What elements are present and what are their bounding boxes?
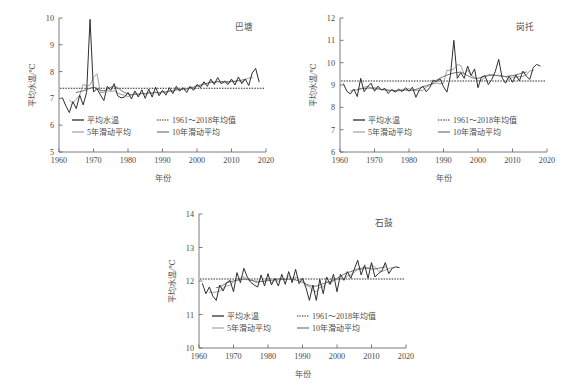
x-tick-label-batang: 2020 xyxy=(258,156,274,165)
x-tick-label-shigu: 1980 xyxy=(260,352,276,361)
legend-label-ma10-batang: 10年滑动平均 xyxy=(172,127,220,137)
legend-item-mean-shigu: 1961～2018年均值 xyxy=(297,311,376,321)
panel-title-shigu: 石鼓 xyxy=(375,217,393,228)
legend-item-annual-gangtuo: 平均水温 xyxy=(353,115,400,125)
legend-item-ma5-gangtuo: 5年滑动平均 xyxy=(353,127,412,137)
y-tick-label-batang: 9 xyxy=(50,41,54,50)
legend-item-ma10-batang: 10年滑动平均 xyxy=(157,127,220,137)
x-tick-label-batang: 1990 xyxy=(154,156,170,165)
x-tick-label-gangtuo: 1980 xyxy=(401,156,417,165)
legend-item-ma5-batang: 5年滑动平均 xyxy=(72,127,131,137)
annual-series-batang xyxy=(62,19,259,112)
legend-item-ma5-shigu: 5年滑动平均 xyxy=(212,323,271,333)
chart-svg-gangtuo: 67891011121960197019801990200020102020岗托… xyxy=(281,0,561,192)
x-tick-label-gangtuo: 2010 xyxy=(504,156,520,165)
legend-label-annual-batang: 平均水温 xyxy=(87,115,119,125)
x-axis-title-batang: 年份 xyxy=(155,173,171,183)
x-tick-label-gangtuo: 1960 xyxy=(332,156,348,165)
y-tick-label-batang: 8 xyxy=(50,68,54,77)
y-tick-label-gangtuo: 8 xyxy=(331,103,335,112)
y-axis-title-gangtuo: 平均水温/℃ xyxy=(308,63,318,106)
legend-item-annual-batang: 平均水温 xyxy=(72,115,119,125)
y-tick-label-gangtuo: 12 xyxy=(327,14,335,23)
chart-svg-shigu: 10111213141960197019801990200020102020石鼓… xyxy=(140,196,421,388)
legend-label-ma5-gangtuo: 5年滑动平均 xyxy=(368,127,412,137)
annual-series-gangtuo xyxy=(343,40,540,97)
chart-panel-gangtuo: 67891011121960197019801990200020102020岗托… xyxy=(281,0,561,192)
figure-root: 56789101960197019801990200020102020巴塘平均水… xyxy=(0,0,561,388)
x-tick-label-batang: 1970 xyxy=(85,156,101,165)
x-tick-label-gangtuo: 2020 xyxy=(539,156,555,165)
y-tick-label-shigu: 14 xyxy=(186,210,194,219)
chart-panel-batang: 56789101960197019801990200020102020巴塘平均水… xyxy=(0,0,281,192)
y-axis-title-batang: 平均水温/℃ xyxy=(27,63,37,106)
y-tick-label-gangtuo: 10 xyxy=(327,59,335,68)
x-tick-label-batang: 2000 xyxy=(189,156,205,165)
legend-item-ma10-gangtuo: 10年滑动平均 xyxy=(438,127,501,137)
x-tick-label-gangtuo: 1970 xyxy=(366,156,382,165)
legend-label-ma10-shigu: 10年滑动平均 xyxy=(312,323,360,333)
legend-label-mean-batang: 1961～2018年均值 xyxy=(172,115,236,125)
x-tick-label-batang: 1960 xyxy=(51,156,67,165)
chart-panel-shigu: 10111213141960197019801990200020102020石鼓… xyxy=(140,196,421,388)
x-tick-label-shigu: 2000 xyxy=(329,352,345,361)
panel-title-batang: 巴塘 xyxy=(235,21,253,32)
x-axis-title-shigu: 年份 xyxy=(295,369,311,379)
legend-label-mean-shigu: 1961～2018年均值 xyxy=(312,311,376,321)
legend-label-ma10-gangtuo: 10年滑动平均 xyxy=(453,127,501,137)
y-tick-label-shigu: 11 xyxy=(186,311,194,320)
legend-label-ma5-shigu: 5年滑动平均 xyxy=(227,323,271,333)
legend-item-mean-batang: 1961～2018年均值 xyxy=(157,115,236,125)
y-tick-label-gangtuo: 11 xyxy=(327,36,335,45)
y-tick-label-batang: 10 xyxy=(46,14,54,23)
legend-label-annual-shigu: 平均水温 xyxy=(227,311,259,321)
x-tick-label-shigu: 1970 xyxy=(225,352,241,361)
x-tick-label-shigu: 2020 xyxy=(398,352,414,361)
y-tick-label-gangtuo: 9 xyxy=(331,81,335,90)
y-tick-label-shigu: 12 xyxy=(186,277,194,286)
legend-label-annual-gangtuo: 平均水温 xyxy=(368,115,400,125)
panel-title-gangtuo: 岗托 xyxy=(516,21,534,32)
y-axis-title-shigu: 平均水温/℃ xyxy=(167,259,177,302)
legend-label-ma5-batang: 5年滑动平均 xyxy=(87,127,131,137)
chart-svg-batang: 56789101960197019801990200020102020巴塘平均水… xyxy=(0,0,281,192)
x-tick-label-shigu: 1990 xyxy=(294,352,310,361)
x-tick-label-batang: 1980 xyxy=(120,156,136,165)
x-tick-label-gangtuo: 1990 xyxy=(435,156,451,165)
legend-item-annual-shigu: 平均水温 xyxy=(212,311,259,321)
x-tick-label-shigu: 2010 xyxy=(363,352,379,361)
y-tick-label-batang: 7 xyxy=(50,94,54,103)
legend-item-mean-gangtuo: 1961～2018年均值 xyxy=(438,115,517,125)
x-tick-label-gangtuo: 2000 xyxy=(470,156,486,165)
y-tick-label-shigu: 13 xyxy=(186,244,194,253)
legend-label-mean-gangtuo: 1961～2018年均值 xyxy=(453,115,517,125)
x-tick-label-shigu: 1960 xyxy=(191,352,207,361)
x-tick-label-batang: 2010 xyxy=(223,156,239,165)
x-axis-title-gangtuo: 年份 xyxy=(436,173,452,183)
y-tick-label-gangtuo: 7 xyxy=(331,126,335,135)
legend-item-ma10-shigu: 10年滑动平均 xyxy=(297,323,360,333)
y-tick-label-batang: 6 xyxy=(50,121,54,130)
